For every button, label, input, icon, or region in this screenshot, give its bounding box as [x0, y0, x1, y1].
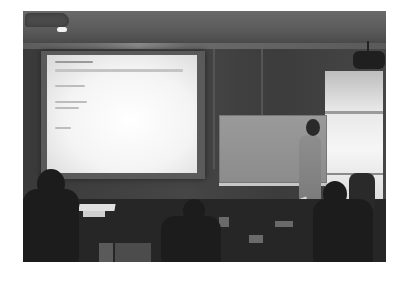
projector-mount — [367, 41, 369, 51]
chair — [99, 243, 113, 262]
window-frame-bar — [325, 111, 383, 114]
desk-surface — [78, 204, 115, 211]
ceiling-light-glow — [57, 27, 67, 32]
audience-member-body — [313, 199, 373, 262]
desk-object — [249, 235, 263, 243]
ceiling-light-fixture — [25, 13, 69, 27]
lecture-room-photo — [23, 11, 386, 262]
audience-member-body — [23, 189, 79, 262]
desk-surface — [83, 211, 105, 217]
presenter-body — [299, 135, 321, 205]
audience-member-head — [323, 181, 347, 207]
desk-object — [275, 221, 293, 227]
slide-heading-line — [55, 69, 183, 72]
presenter-head — [306, 119, 320, 136]
slide-text-line — [55, 107, 79, 109]
slide-title-bar — [55, 61, 93, 63]
audience-member-head — [37, 169, 65, 199]
slide-text-line — [55, 127, 71, 129]
slide-text-line — [55, 101, 87, 103]
audience-member-head — [183, 199, 205, 223]
ceiling-projector — [353, 51, 385, 69]
ceiling — [23, 11, 386, 43]
wall-panel-seam — [213, 49, 215, 169]
floor-patch — [115, 243, 151, 262]
slide-text-line — [55, 85, 85, 87]
projection-screen — [47, 55, 197, 173]
audience-member-body — [161, 216, 221, 262]
